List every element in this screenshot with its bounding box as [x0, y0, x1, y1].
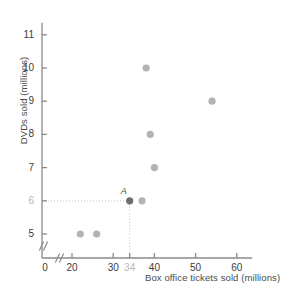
data-point[interactable] — [208, 98, 215, 105]
data-point[interactable] — [77, 230, 84, 237]
data-point[interactable] — [143, 64, 150, 71]
y-tick-label: 9 — [12, 95, 34, 106]
data-point-highlighted[interactable] — [126, 197, 133, 204]
x-tick-label: 60 — [225, 262, 249, 273]
y-tick-label: 5 — [12, 228, 34, 239]
x-tick-label: 50 — [184, 262, 208, 273]
point-label-a: A — [121, 186, 127, 196]
x-axis-title: Box office tickets sold (millions) — [145, 272, 280, 283]
data-point[interactable] — [93, 230, 100, 237]
x-tick-label: 34 — [118, 262, 142, 273]
data-point[interactable] — [138, 197, 145, 204]
y-tick-label: 11 — [12, 29, 34, 40]
x-tick-label: 20 — [60, 262, 84, 273]
scatter-plot-figure: DVDs sold (millions) Box office tickets … — [0, 0, 292, 291]
y-tick-label: 8 — [12, 128, 34, 139]
y-tick-label: 10 — [12, 62, 34, 73]
data-point[interactable] — [147, 131, 154, 138]
y-tick-label: 6 — [12, 195, 34, 206]
chart-canvas — [0, 0, 292, 291]
data-point[interactable] — [151, 164, 158, 171]
x-tick-label: 40 — [142, 262, 166, 273]
y-axis-break-mark — [39, 242, 47, 251]
x-tick-label: 0 — [33, 262, 57, 273]
y-tick-label: 7 — [12, 162, 34, 173]
